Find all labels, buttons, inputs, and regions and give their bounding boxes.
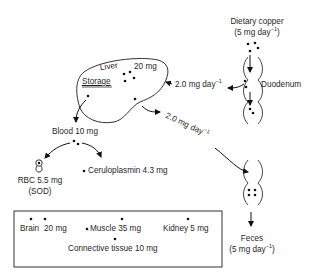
ceruloplasmin-label: Ceruloplasmin 4.3 mg xyxy=(88,166,168,176)
blood-label: Blood 10 mg xyxy=(52,127,98,137)
kidney-label: Kidney 5 mg xyxy=(163,224,209,234)
rbc-icon xyxy=(36,160,42,172)
flow-duodenum-liver: 2.0 mg day−1 xyxy=(175,80,222,90)
dietary-copper-title: Dietary copper xyxy=(226,17,288,27)
brain-label: Brain xyxy=(20,224,39,234)
muscle-label: Muscle 35 mg xyxy=(90,224,141,234)
dietary-copper-amount: (5 mg day−1) xyxy=(226,28,288,38)
storage-label: Storage xyxy=(82,77,111,87)
rbc-label: RBC 5.5 mg xyxy=(12,176,68,186)
feces-amount: (5 mg day−1) xyxy=(222,245,282,255)
duodenum-label: Duodenum xyxy=(261,80,301,90)
duodenum-tube xyxy=(244,57,263,205)
brain-amount: 20 mg xyxy=(44,224,67,234)
connective-tissue-label: Connective tissue 10 mg xyxy=(68,244,158,254)
liver-amount: 20 mg xyxy=(134,62,157,72)
sod-label: (SOD) xyxy=(12,187,68,197)
